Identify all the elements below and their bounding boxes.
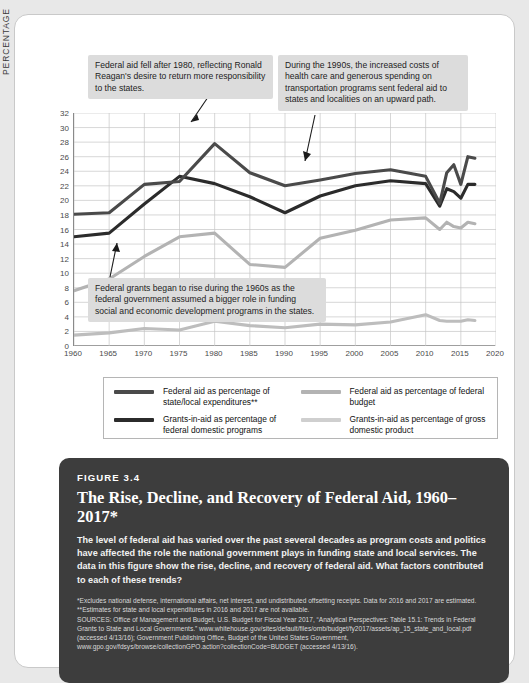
y-tick-label: 18 [45, 210, 69, 219]
x-tick-label: 1960 [64, 349, 82, 358]
chart-legend: Federal aid as percentage of state/local… [103, 377, 498, 439]
y-tick-label: 30 [45, 123, 69, 132]
legend-label: Federal aid as percentage of state/local… [163, 386, 301, 407]
annotation-reagan: Federal aid fell after 1980, reflecting … [88, 55, 273, 99]
figure-note-1: *Excludes national defense, internationa… [77, 596, 491, 605]
legend-item: Federal aid as percentage of federal bud… [301, 386, 488, 407]
figure-card: PERCENTAGE 32302826242220181614121086420… [14, 14, 515, 668]
legend-swatch-icon [114, 418, 154, 422]
legend-swatch-icon [301, 390, 341, 394]
y-axis-title: PERCENTAGE [1, 8, 11, 75]
figure-note-2: **Estimates for state and local expendit… [77, 605, 491, 614]
x-tick-label: 2010 [416, 349, 434, 358]
figure-sources: SOURCES: Office of Management and Budget… [77, 615, 491, 651]
x-tick-label: 1970 [134, 349, 152, 358]
figure-description: The level of federal aid has varied over… [77, 534, 491, 587]
x-tick-label: 1990 [275, 349, 293, 358]
legend-label: Federal aid as percentage of federal bud… [350, 386, 488, 407]
x-tick-label: 1985 [240, 349, 258, 358]
y-tick-label: 2 [45, 327, 69, 336]
y-tick-label: 8 [45, 283, 69, 292]
y-tick-label: 14 [45, 240, 69, 249]
x-tick-label: 2000 [345, 349, 363, 358]
x-tick-label: 2020 [486, 349, 504, 358]
legend-swatch-icon [301, 418, 341, 422]
y-tick-label: 12 [45, 254, 69, 263]
x-tick-label: 1980 [205, 349, 223, 358]
y-tick-label: 6 [45, 298, 69, 307]
figure-number: FIGURE 3.4 [77, 472, 491, 483]
y-tick-label: 10 [45, 269, 69, 278]
y-tick-label: 24 [45, 167, 69, 176]
legend-item: Federal aid as percentage of state/local… [114, 386, 301, 407]
annotation-1990s: During the 1990s, the increased costs of… [278, 55, 468, 111]
x-tick-label: 1965 [99, 349, 117, 358]
y-tick-label: 20 [45, 196, 69, 205]
x-tick-label: 2005 [381, 349, 399, 358]
x-tick-label: 1995 [310, 349, 328, 358]
y-tick-label: 32 [45, 109, 69, 118]
y-tick-label: 16 [45, 225, 69, 234]
chart-container: PERCENTAGE 32302826242220181614121086420… [15, 15, 516, 435]
legend-swatch-icon [114, 390, 154, 394]
legend-label: Grants-in-aid as percentage of gross dom… [350, 414, 488, 435]
figure-caption-block: FIGURE 3.4 The Rise, Decline, and Recove… [59, 458, 509, 683]
figure-title: The Rise, Decline, and Recovery of Feder… [77, 488, 491, 526]
annotation-1960s: Federal grants began to rise during the … [88, 278, 326, 322]
legend-label: Grants-in-aid as percentage of federal d… [163, 414, 301, 435]
legend-item: Grants-in-aid as percentage of gross dom… [301, 414, 488, 435]
x-axis-ticks: 1960196519701975198019851990199520002005… [73, 349, 495, 363]
y-tick-label: 4 [45, 312, 69, 321]
y-tick-label: 26 [45, 152, 69, 161]
y-tick-label: 22 [45, 181, 69, 190]
legend-item: Grants-in-aid as percentage of federal d… [114, 414, 301, 435]
y-tick-label: 28 [45, 138, 69, 147]
x-tick-label: 1975 [170, 349, 188, 358]
y-axis-ticks: 32302826242220181614121086420 [45, 113, 69, 346]
x-tick-label: 2015 [451, 349, 469, 358]
